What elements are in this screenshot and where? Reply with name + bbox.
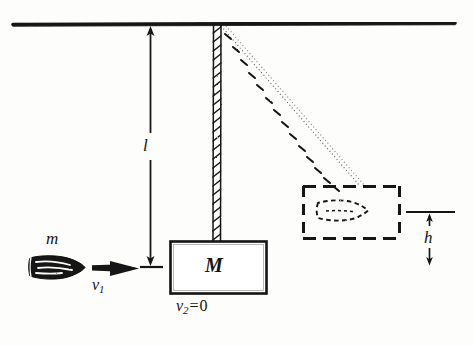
block-velocity-label: v2=0: [176, 298, 208, 316]
equals-sign: =: [189, 297, 200, 314]
pendulum-cord-swung: [221, 26, 365, 191]
rise-height-label: h: [424, 229, 433, 246]
pendulum-cord-vertical: [213, 25, 221, 243]
bullet-velocity-subscript: 1: [99, 283, 104, 295]
cord-length-label: l: [143, 137, 148, 154]
bullet-mass-label: m: [46, 230, 58, 247]
bullet: [29, 256, 85, 279]
ballistic-pendulum-figure: m v1 l M v2=0 h: [0, 0, 473, 346]
figure-canvas: [0, 0, 473, 346]
block-velocity-subscript: 2: [183, 304, 188, 316]
ceiling-support-line: [13, 23, 455, 26]
bullet-velocity-label: v1: [92, 277, 105, 295]
embedded-bullet-dashed: [317, 200, 368, 220]
bullet-velocity-arrow: [92, 261, 139, 276]
block-velocity-value: 0: [200, 297, 208, 314]
block-mass-label: M: [205, 255, 223, 275]
